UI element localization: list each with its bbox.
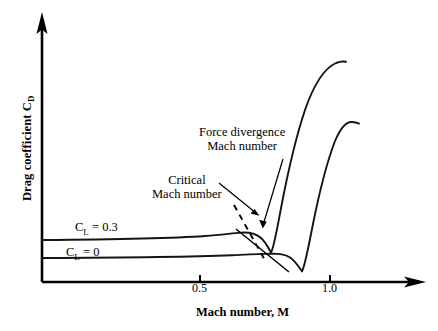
annotation-critical-mach-line1: Critical bbox=[152, 173, 222, 187]
x-axis-label: Mach number, M bbox=[196, 305, 289, 320]
annotation-critical-mach-line2: Mach number bbox=[152, 187, 222, 201]
annotation-force-divergence-line2: Mach number bbox=[199, 139, 285, 153]
curve-label-cl-0: CL = 0 bbox=[66, 245, 99, 262]
x-tick-label-1.0: 1.0 bbox=[322, 281, 337, 296]
chart-canvas bbox=[0, 0, 438, 331]
curve-label-cl-0-3: CL = 0.3 bbox=[75, 220, 118, 237]
x-tick-label-0.5: 0.5 bbox=[192, 281, 207, 296]
critical-mach-leader bbox=[219, 183, 260, 216]
annotation-force-divergence: Force divergence Mach number bbox=[199, 125, 285, 153]
y-axis-label: Drag coefficient CD bbox=[20, 68, 37, 228]
curve-label-cl-0-value: = 0 bbox=[80, 245, 100, 259]
critical-mach-pointer-lower bbox=[236, 229, 289, 272]
drag-divergence-chart: Drag coefficient CD Mach number, M 0.5 1… bbox=[0, 0, 438, 331]
annotation-critical-mach: Critical Mach number bbox=[152, 173, 222, 201]
annotation-force-divergence-line1: Force divergence bbox=[199, 125, 285, 139]
y-axis-label-subscript: D bbox=[26, 95, 36, 102]
y-axis-label-main: Drag coefficient C bbox=[20, 102, 34, 201]
curve-label-cl-0-3-value: = 0.3 bbox=[89, 220, 118, 234]
